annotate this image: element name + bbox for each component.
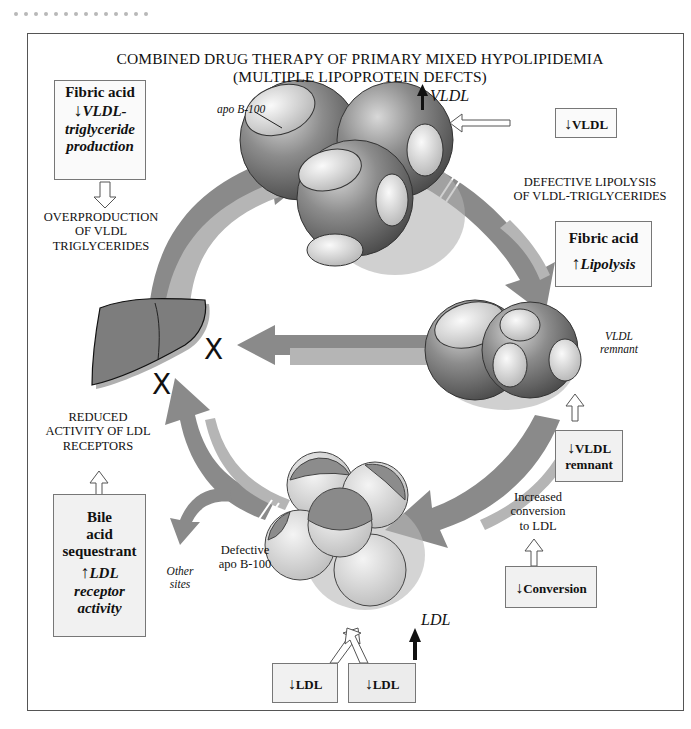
label-line: Defective (210, 543, 280, 557)
drug-name: Fibric acid (55, 84, 145, 101)
vldl-increase-label: VLDL (430, 87, 469, 105)
blocked-x-mark-2: X (152, 368, 171, 401)
vldl-remnant-decrease-box: ↓VLDL remnant (555, 430, 623, 482)
title-line-1: COMBINED DRUG THERAPY OF PRIMARY MIXED H… (60, 50, 660, 68)
label-line: DEFECTIVE LIPOLYSIS (500, 175, 680, 189)
effect-line-2: triglyceride (55, 121, 145, 138)
down-arrow-icon: ↓ (564, 115, 572, 132)
label-line: Increased (498, 490, 578, 504)
label-line: sites (160, 578, 200, 591)
effect-label: LDL (373, 677, 400, 692)
effect-line-3: production (55, 137, 145, 155)
liver-icon (92, 298, 210, 389)
effect-label: Conversion (523, 581, 587, 596)
ldl-decrease-box-1: ↓LDL (272, 663, 338, 703)
label-line: RECEPTORS (38, 439, 158, 453)
label-line: OF VLDL-TRIGLYCERIDES (500, 189, 680, 203)
ldl-particle-cluster (265, 452, 425, 610)
label-line: Other (160, 565, 200, 578)
diagram-title: COMBINED DRUG THERAPY OF PRIMARY MIXED H… (60, 50, 660, 86)
arrow-ldl-to-liver (165, 378, 290, 528)
vldl-remnant-label: VLDL remnant (600, 330, 638, 356)
label-line: REDUCED (38, 410, 158, 424)
label-line: TRIGLYCERIDES (36, 239, 166, 253)
effect-line-2: remnant (556, 457, 622, 473)
effect-line-1: VLDL- (82, 103, 126, 119)
up-arrow-vldl-stem (421, 95, 424, 110)
defective-lipolysis-label: DEFECTIVE LIPOLYSIS OF VLDL-TRIGLYCERIDE… (500, 175, 680, 204)
apo-b100-label: apo B-100 (217, 103, 265, 116)
hollow-arrow-up-remnant (566, 394, 584, 421)
effect-line-1: VLDL (575, 441, 611, 456)
label-line: conversion (498, 504, 578, 518)
effect-label: VLDL (572, 117, 608, 132)
conversion-decrease-box: ↓Conversion (505, 566, 597, 608)
drug-line-2: acid (54, 526, 145, 543)
hollow-arrow-down-overproduction (94, 182, 116, 208)
arrow-remnant-to-liver (237, 325, 444, 365)
down-arrow-icon: ↓ (567, 439, 575, 456)
label-line: OVERPRODUCTION (36, 210, 166, 224)
effect-line-1: LDL (89, 565, 118, 581)
overproduction-label: OVERPRODUCTION OF VLDL TRIGLYCERIDES (36, 210, 166, 253)
fibric-acid-vldl-production-box: Fibric acid ↓VLDL- triglyceride producti… (54, 80, 146, 180)
drug-line-3: sequestrant (54, 543, 145, 560)
up-arrow-icon: ↑ (572, 253, 581, 273)
effect-label: LDL (296, 677, 323, 692)
arrow-other-sites (170, 489, 232, 545)
down-arrow-icon: ↓ (288, 675, 296, 692)
ldl-decrease-box-2: ↓LDL (348, 663, 416, 703)
increased-conversion-label: Increased conversion to LDL (498, 490, 578, 533)
blocked-x-mark-1: X (204, 333, 223, 366)
label-line: VLDL (600, 330, 638, 343)
vldl-remnant-particle (425, 294, 581, 410)
vldl-decrease-box: ↓VLDL (555, 108, 617, 138)
effect-line-3: activity (54, 600, 145, 617)
effect-label: Lipolysis (581, 256, 636, 272)
reduced-activity-label: REDUCED ACTIVITY OF LDL RECEPTORS (38, 410, 158, 453)
defective-apo-label: Defective apo B-100 (210, 543, 280, 572)
drug-line-1: Bile (54, 509, 145, 526)
fibric-acid-lipolysis-box: Fibric acid ↑Lipolysis (555, 221, 652, 287)
up-arrow-ldl-head (409, 628, 421, 642)
label-line: to LDL (498, 519, 578, 533)
effect-line-2: receptor (54, 583, 145, 600)
drug-name: Fibric acid (556, 230, 651, 247)
bile-acid-sequestrant-box: Bile acid sequestrant ↑LDL receptor acti… (53, 494, 146, 637)
title-line-2: (MULTIPLE LIPOPROTEIN DEFCTS) (60, 68, 660, 86)
hollow-arrow-left-vldl (450, 114, 510, 132)
other-sites-label: Other sites (160, 565, 200, 591)
label-line: remnant (600, 343, 638, 356)
down-arrow-icon: ↓ (365, 675, 373, 692)
hollow-arrow-up-conversion (525, 539, 543, 566)
label-line: ACTIVITY OF LDL (38, 424, 158, 438)
label-line: OF VLDL (36, 224, 166, 238)
label-line: apo B-100 (210, 557, 280, 571)
ldl-increase-label: LDL (421, 611, 450, 629)
